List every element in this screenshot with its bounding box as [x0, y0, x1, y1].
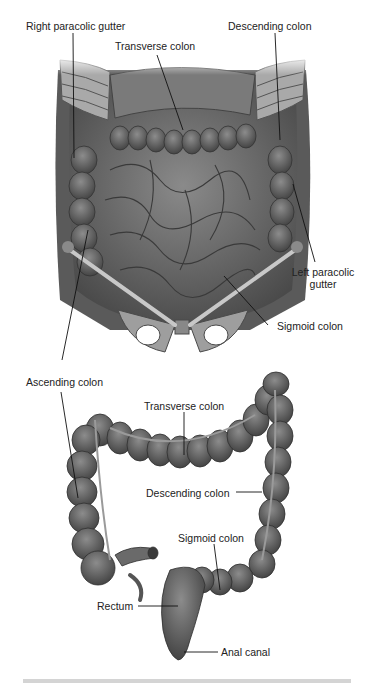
label-rectum: Rectum [97, 600, 133, 612]
label-sigmoid-colon-bottom: Sigmoid colon [178, 532, 244, 544]
label-sigmoid-colon-top: Sigmoid colon [277, 320, 343, 332]
bottom-divider [23, 679, 351, 683]
label-descending-colon-top: Descending colon [228, 20, 311, 32]
label-ascending-colon: Ascending colon [26, 376, 103, 388]
label-descending-colon-bottom: Descending colon [146, 487, 229, 499]
large-intestine [67, 372, 293, 660]
label-right-paracolic-gutter: Right paracolic gutter [26, 20, 125, 32]
label-transverse-colon-bottom: Transverse colon [144, 400, 224, 412]
label-anal-canal: Anal canal [221, 646, 270, 658]
abdominal-cavity [40, 55, 330, 352]
label-transverse-colon-top: Transverse colon [115, 40, 195, 52]
colon-anatomy-illustration [0, 0, 365, 683]
label-left-paracolic-gutter: Left paracolic gutter [288, 266, 358, 290]
